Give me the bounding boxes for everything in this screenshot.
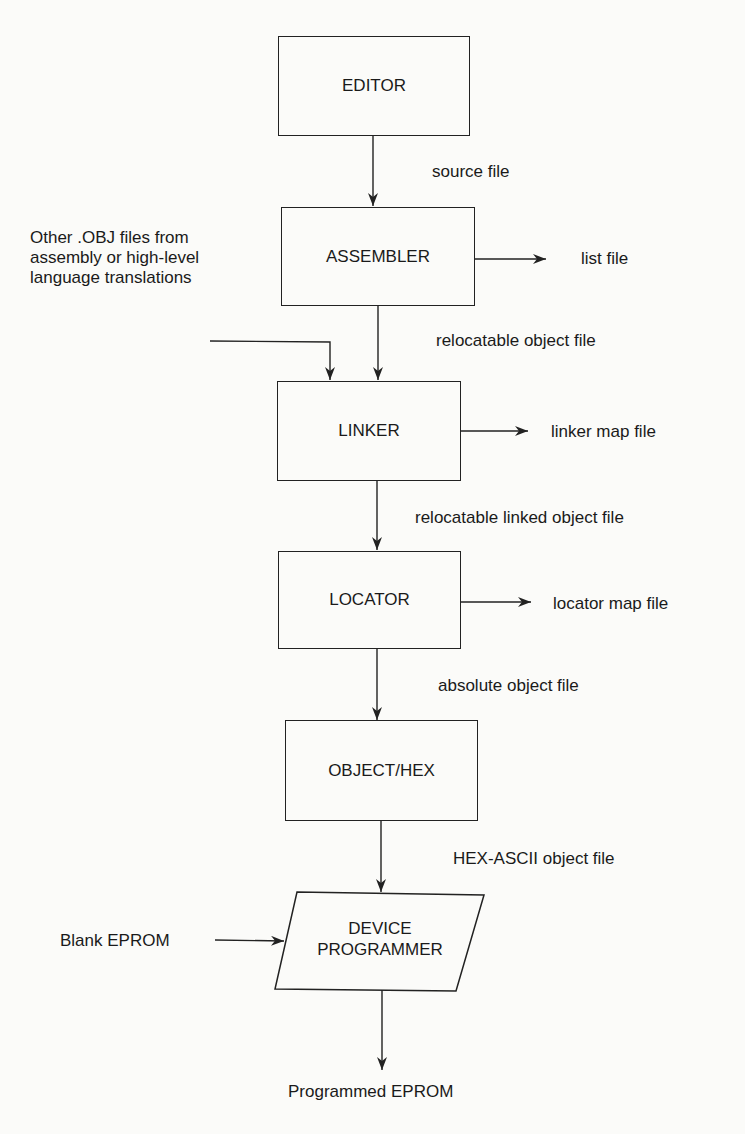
device-programmer-node: DEVICE PROGRAMMER bbox=[290, 918, 470, 960]
programmed-eprom-label: Programmed EPROM bbox=[288, 1082, 453, 1102]
list-file-label: list file bbox=[581, 249, 628, 269]
locator-node: LOCATOR bbox=[278, 551, 461, 649]
locator-map-file-label: locator map file bbox=[553, 594, 668, 614]
objecthex-node: OBJECT/HEX bbox=[285, 720, 478, 821]
linker-map-file-label: linker map file bbox=[551, 422, 656, 442]
other-obj-line1: Other .OBJ files from bbox=[30, 228, 199, 248]
other-obj-line3: language translations bbox=[30, 268, 199, 288]
other-obj-files-label: Other .OBJ files from assembly or high-l… bbox=[30, 228, 199, 288]
device-label-line1: DEVICE bbox=[290, 918, 470, 939]
relocatable-object-file-label: relocatable object file bbox=[436, 331, 596, 351]
objecthex-label: OBJECT/HEX bbox=[328, 761, 435, 781]
device-label-line2: PROGRAMMER bbox=[290, 939, 470, 960]
linker-node: LINKER bbox=[277, 381, 461, 481]
editor-label: EDITOR bbox=[342, 76, 406, 96]
assembler-label: ASSEMBLER bbox=[326, 247, 430, 267]
linker-label: LINKER bbox=[338, 421, 399, 441]
source-file-label: source file bbox=[432, 162, 509, 182]
other-obj-line2: assembly or high-level bbox=[30, 248, 199, 268]
blank-eprom-label: Blank EPROM bbox=[60, 931, 170, 951]
absolute-object-file-label: absolute object file bbox=[438, 676, 579, 696]
editor-node: EDITOR bbox=[278, 36, 470, 136]
assembler-node: ASSEMBLER bbox=[281, 207, 475, 306]
locator-label: LOCATOR bbox=[329, 590, 410, 610]
relocatable-linked-object-file-label: relocatable linked object file bbox=[415, 508, 624, 528]
hex-ascii-object-file-label: HEX-ASCII object file bbox=[453, 849, 615, 869]
